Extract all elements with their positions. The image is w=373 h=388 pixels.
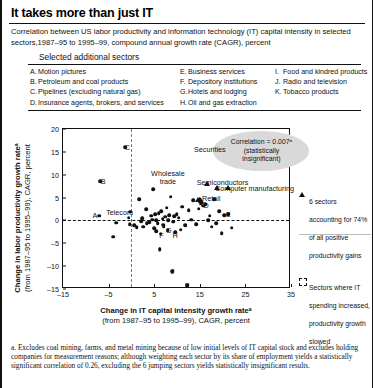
data-point-circle — [160, 209, 164, 213]
data-point-circle — [156, 221, 160, 225]
x-axis-tick-mark — [245, 284, 246, 287]
sectors-box-top-rule — [28, 64, 361, 65]
data-point-circle — [165, 206, 169, 210]
x-axis-tick-label: 5 — [152, 287, 156, 299]
data-point-circle — [220, 231, 224, 235]
y-axis-tick-mark — [63, 243, 66, 244]
data-point-circle — [197, 207, 201, 211]
list-item: I.Food and kindred products — [275, 67, 365, 77]
sector-label: Hotels and lodging — [188, 88, 247, 96]
point-label: Telecom — [106, 207, 133, 216]
y-axis-tick-mark — [63, 129, 66, 130]
plot-area: –15–10–505101520–15–55152535Correlation … — [62, 128, 290, 288]
point-label: Computer manufacturing — [215, 183, 294, 192]
sector-key: H. — [180, 98, 188, 108]
y-axis-tick-label: 20 — [51, 125, 63, 134]
data-point-circle — [217, 209, 221, 213]
sector-key: J. — [275, 77, 283, 87]
point-letter-label: F — [159, 231, 163, 240]
sector-key: I. — [275, 67, 283, 77]
x-axis-tick-mark — [109, 284, 110, 287]
data-point-circle — [97, 214, 101, 218]
x-axis-tick-mark — [154, 284, 155, 287]
y-axis-tick-label: –10 — [47, 262, 63, 271]
data-point-circle — [139, 220, 143, 224]
sectors-column-3: I.Food and kindred products J.Radio and … — [275, 67, 365, 108]
list-item: J.Radio and television — [275, 77, 365, 87]
sector-label: Depository institutions — [188, 78, 257, 86]
data-point-circle — [214, 221, 218, 225]
list-item: E.Business services — [180, 67, 275, 77]
sector-key: C. — [30, 87, 38, 97]
data-point-circle — [141, 225, 145, 229]
data-point-circle — [172, 215, 176, 219]
sectors-box-heading: Selected additional sectors — [39, 52, 139, 62]
point-letter-label: J — [171, 267, 175, 276]
y-axis-title: Change in labor productivity growth rate… — [13, 133, 33, 303]
x-axis-title-sub: (from 1987–95 to 1995–99), CAGR, percent — [102, 316, 250, 325]
data-point-circle — [128, 222, 132, 226]
title-divider — [9, 23, 365, 24]
x-axis-tick-label: –15 — [57, 287, 69, 299]
point-letter-label: H — [173, 231, 178, 240]
data-point-circle — [111, 235, 115, 239]
y-axis-tick-mark — [63, 266, 66, 267]
point-letter-label: I — [159, 244, 161, 253]
data-point-circle — [127, 216, 131, 220]
data-point-circle — [137, 197, 141, 201]
legend-divider — [299, 234, 371, 235]
y-axis-tick-label: 10 — [51, 170, 63, 179]
scatter-chart: –15–10–505101520–15–55152535Correlation … — [2, 118, 373, 338]
footnote: a. Excludes coal mining, farms, and meta… — [11, 343, 363, 377]
data-point-circle — [151, 188, 155, 192]
sector-label: Radio and television — [283, 78, 347, 86]
point-letter-label: A — [93, 211, 98, 220]
sector-label: Tobacco products — [283, 88, 339, 96]
legend-item-label: Sectors where IT spending increased, pro… — [309, 284, 370, 345]
dashed-box-marker-icon — [299, 278, 307, 286]
page-title: It takes more than just IT — [11, 6, 153, 20]
x-axis-title-bold: Change in IT capital intensity growth ra… — [100, 306, 251, 315]
y-axis-tick-label: –5 — [51, 239, 63, 248]
legend-item-it-spending: Sectors where IT spending increased, pro… — [299, 276, 371, 348]
data-point-triangle — [195, 197, 201, 202]
point-label: Wholesaletrade — [151, 170, 185, 187]
sector-label: Pipelines (excluding natural gas) — [38, 88, 141, 96]
sector-key: G. — [180, 87, 188, 97]
list-item: F.Depository institutions — [180, 77, 275, 87]
data-point-circle — [162, 223, 166, 227]
y-axis-title-sub: (from 1987–95 to 1995–99), CAGR, percent — [23, 144, 32, 292]
legend-item-label: 6 sectors accounting for 74% of all posi… — [309, 198, 367, 259]
page-subtitle: Correlation between US labor productivit… — [11, 27, 361, 48]
data-point-circle — [187, 209, 191, 213]
sector-key: D. — [30, 98, 38, 108]
point-letter-label: B — [101, 177, 106, 186]
sectors-box: A.Motion pictures B.Petroleum and coal p… — [30, 67, 365, 108]
x-axis-title: Change in IT capital intensity growth ra… — [62, 306, 290, 326]
sector-key: K. — [275, 87, 283, 97]
correlation-annotation: Correlation = 0.007ᵃ(statisticallyinsign… — [213, 131, 309, 171]
data-point-circle — [210, 225, 214, 229]
y-axis-tick-mark — [63, 197, 66, 198]
plot-canvas: –15–10–505101520–15–55152535Correlation … — [63, 129, 289, 287]
point-letter-label: D — [204, 200, 209, 209]
list-item: G.Hotels and lodging — [180, 87, 275, 97]
sector-key: B. — [30, 77, 38, 87]
point-letter-label: E — [226, 210, 231, 219]
sectors-column-1: A.Motion pictures B.Petroleum and coal p… — [30, 67, 180, 108]
chart-legend: 6 sectors accounting for 74% of all posi… — [299, 190, 371, 352]
sector-label: Motion pictures — [38, 68, 86, 76]
data-point-circle — [230, 226, 234, 230]
x-axis-tick-mark — [291, 284, 292, 287]
data-point-circle — [206, 219, 210, 223]
data-point-circle — [144, 208, 148, 212]
y-axis-tick-mark — [63, 174, 66, 175]
data-point-circle — [189, 218, 193, 222]
sector-label: Insurance agents, brokers, and services — [38, 99, 164, 107]
sector-label: Oil and gas extraction — [188, 99, 257, 107]
data-point-circle — [181, 205, 185, 209]
data-point-circle — [135, 225, 139, 229]
list-item: D.Insurance agents, brokers, and service… — [30, 98, 180, 108]
data-point-circle — [141, 216, 145, 220]
point-letter-label: K — [185, 280, 190, 289]
